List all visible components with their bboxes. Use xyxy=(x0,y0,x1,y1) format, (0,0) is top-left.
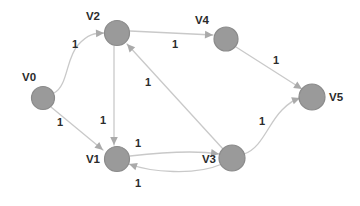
edge-weight-label: 1 xyxy=(100,114,106,126)
node-v3[interactable] xyxy=(219,145,245,171)
node-label-v5: V5 xyxy=(329,91,344,103)
edge-v3-v1 xyxy=(129,164,222,172)
edge-weight-label: 1 xyxy=(273,54,279,66)
node-v5[interactable] xyxy=(299,84,325,110)
node-v4[interactable] xyxy=(214,27,238,51)
graph-svg: 111111111V0V1V2V3V4V5 xyxy=(0,0,360,206)
edge-v0-v1 xyxy=(51,107,103,150)
edge-weight-label: 1 xyxy=(259,115,265,127)
edge-layer xyxy=(51,31,302,172)
arrowhead-v2-v4-icon xyxy=(205,31,213,39)
node-label-v0: V0 xyxy=(22,71,36,83)
node-label-v3: V3 xyxy=(202,153,216,165)
edge-v3-v2 xyxy=(127,44,223,149)
node-v0[interactable] xyxy=(32,87,55,110)
edge-weight-label: 1 xyxy=(57,116,63,128)
edge-weight-label: 1 xyxy=(72,38,78,50)
edge-weight-label: 1 xyxy=(135,137,141,149)
node-v2[interactable] xyxy=(105,21,130,46)
arrow-layer xyxy=(94,29,304,170)
edge-weight-label: 1 xyxy=(135,177,141,189)
arrowhead-v0-v2-icon xyxy=(96,29,104,37)
edge-v0-v2 xyxy=(54,33,104,93)
edge-v4-v5 xyxy=(236,47,302,89)
node-label-v1: V1 xyxy=(86,153,101,165)
node-label-v2: V2 xyxy=(86,10,100,22)
edge-v2-v4 xyxy=(130,31,213,35)
node-v1[interactable] xyxy=(105,147,130,172)
arrowhead-v2-v1-icon xyxy=(110,137,118,145)
graph-canvas: 111111111V0V1V2V3V4V5 xyxy=(0,0,360,206)
edge-weight-label: 1 xyxy=(172,38,178,50)
node-label-v4: V4 xyxy=(195,14,210,26)
edge-weight-label: 1 xyxy=(145,76,151,88)
edge-v3-v5 xyxy=(244,98,300,154)
